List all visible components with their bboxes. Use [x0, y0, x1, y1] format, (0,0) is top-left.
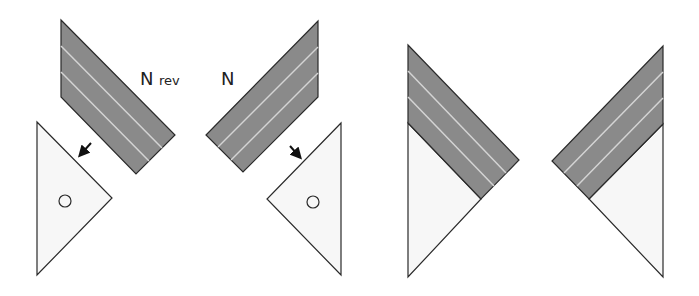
label-n-rev-sub: rev [159, 73, 180, 88]
assembled-shape-left [408, 45, 519, 277]
arrow-down-right-icon [290, 146, 298, 155]
label-n: N [221, 68, 234, 89]
dark-piece-n [206, 21, 318, 172]
arrow-down-left-icon [82, 143, 91, 153]
light-triangle-right [267, 123, 341, 275]
dark-piece-n-rev [61, 20, 175, 174]
light-triangle-left [37, 122, 112, 275]
diagram-canvas: N rev N [0, 0, 699, 296]
assembled-shape-right [552, 46, 663, 277]
label-n-rev-main: N [140, 68, 153, 89]
